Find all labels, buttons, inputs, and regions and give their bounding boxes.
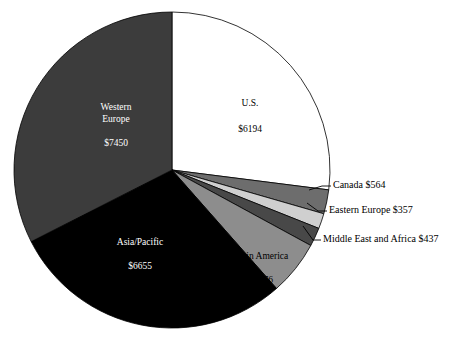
- pie-chart: U.S. $6194 Western Europe $7450 Asia/Pac…: [0, 0, 470, 340]
- callout-label-middle-east-and-africa: Middle East and Africa $437: [323, 233, 439, 244]
- slice-label-us-value: $6194: [238, 124, 262, 134]
- slice-label-latin-america-name: Latin America: [234, 251, 289, 261]
- slice-label-western-europe-name-line2: Europe: [102, 114, 129, 124]
- pie-slices: [14, 12, 330, 328]
- slice-label-asia-pacific-name: Asia/Pacific: [117, 237, 163, 247]
- callout-label-eastern-europe: Eastern Europe $357: [329, 204, 413, 215]
- callout-label-canada: Canada $564: [333, 179, 386, 190]
- callout-labels: Canada $564 Eastern Europe $357 Middle E…: [323, 179, 439, 244]
- slice-label-western-europe-name-line1: Western: [101, 102, 132, 112]
- pie-chart-svg: U.S. $6194 Western Europe $7450 Asia/Pac…: [0, 0, 470, 340]
- slice-label-asia-pacific-value: $6655: [128, 261, 152, 271]
- slice-label-latin-america-value: $1276: [249, 275, 273, 285]
- slice-label-western-europe-value: $7450: [104, 138, 128, 148]
- slice-label-us-name: U.S.: [242, 98, 259, 108]
